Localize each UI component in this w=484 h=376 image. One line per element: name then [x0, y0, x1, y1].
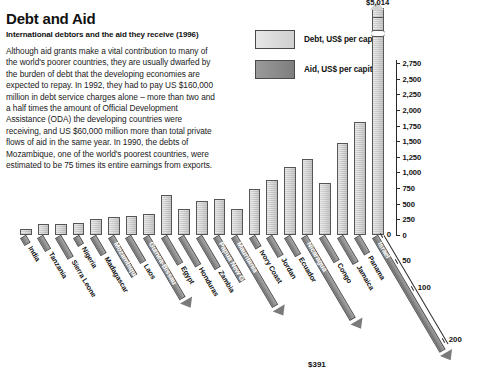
- debt-bar: [354, 122, 366, 235]
- debt-bar: [266, 180, 278, 235]
- axis-tick: [396, 219, 400, 220]
- debt-bar: [302, 159, 314, 235]
- axis-tick: [396, 63, 400, 64]
- axis-tick: [396, 126, 400, 127]
- aid-bar-arrowhead-icon: [351, 317, 368, 332]
- chart-plot-area: IndiaTanzaniaSierra LeoneNigeriaMadagasc…: [0, 0, 484, 376]
- aid-bar: [284, 235, 301, 258]
- debt-overflow-value-label: $5,014: [366, 0, 389, 7]
- aid-bar: [73, 235, 84, 247]
- category-label-egypt: Egypt: [179, 264, 197, 285]
- axis-tick-label: 2,750: [403, 59, 422, 68]
- axis-tick-label: 1,750: [403, 122, 422, 131]
- debt-axis-line: [396, 60, 397, 236]
- debt-bar: [55, 224, 67, 235]
- debt-bar: [126, 216, 138, 235]
- debt-bar: [231, 209, 243, 235]
- aid-axis-tick-label: 0: [387, 230, 391, 239]
- aid-bar: [249, 235, 262, 250]
- category-label-israel: Israel: [375, 240, 392, 260]
- axis-tick: [396, 141, 400, 142]
- aid-axis-line: [383, 235, 448, 344]
- axis-tick: [396, 204, 400, 205]
- axis-tick: [396, 94, 400, 95]
- axis-break-icon: [371, 30, 385, 37]
- debt-bar: [108, 217, 120, 235]
- debt-bar: [337, 143, 349, 235]
- debt-bar: [214, 199, 226, 235]
- debt-bar: [249, 189, 261, 235]
- axis-tick-label: 2,500: [403, 75, 422, 84]
- category-label-congo: Congo: [335, 261, 354, 285]
- axis-tick-label: 250: [403, 215, 415, 224]
- debt-bar: [143, 214, 155, 235]
- debt-bar: [319, 183, 331, 235]
- axis-tick-label: 0: [403, 231, 407, 240]
- debt-bar: [372, 18, 384, 235]
- axis-tick-label: 2,000: [403, 106, 422, 115]
- axis-tick: [396, 188, 400, 189]
- aid-bar-arrowhead-icon: [180, 296, 197, 311]
- debt-bar: [178, 209, 190, 235]
- aid-bar: [354, 235, 370, 256]
- debt-bar: [73, 223, 85, 235]
- debt-bar: [90, 219, 102, 235]
- axis-tick: [396, 235, 400, 236]
- axis-tick-label: 500: [403, 200, 415, 209]
- axis-tick: [396, 79, 400, 80]
- debt-bar: [38, 224, 50, 235]
- axis-tick-label: 1,250: [403, 153, 422, 162]
- aid-bar: [20, 235, 31, 246]
- axis-tick-label: 2,250: [403, 90, 422, 99]
- axis-tick: [396, 172, 400, 173]
- aid-bar-arrowhead-icon: [273, 304, 290, 319]
- debt-bar: [161, 195, 173, 235]
- debt-bar: [284, 167, 296, 235]
- axis-tick: [396, 157, 400, 158]
- axis-tick-label: 1,000: [403, 168, 422, 177]
- axis-tick-label: 1,500: [403, 137, 422, 146]
- aid-axis-tick-label: 100: [418, 283, 431, 292]
- aid-overflow-value-label: $391: [308, 360, 326, 369]
- aid-axis-tick-label: 50: [402, 256, 411, 265]
- debt-bar: [196, 201, 208, 235]
- axis-tick-label: 750: [403, 184, 415, 193]
- debt-bar: [20, 229, 32, 235]
- category-label-honduras: Honduras: [197, 265, 221, 297]
- aid-axis-tick-label: 200: [449, 335, 462, 344]
- category-label-laos: Laos: [142, 262, 158, 281]
- axis-tick: [396, 110, 400, 111]
- aid-bar: [37, 235, 51, 252]
- category-label-india: India: [26, 244, 42, 262]
